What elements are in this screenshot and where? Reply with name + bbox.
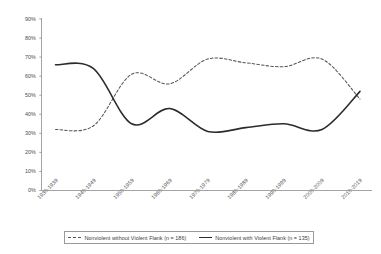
legend-label: Nonviolent without Violent Flank (n = 18… [84,235,186,241]
legend-solid-line-icon [199,237,212,238]
series-line-dashed [56,58,361,131]
legend-entry[interactable]: Nonviolent without Violent Flank (n = 18… [68,235,186,241]
series-lines [56,58,361,133]
plot-area [0,0,381,254]
chart-legend: Nonviolent without Violent Flank (n = 18… [64,231,314,244]
chart-container: 0%10%20%30%40%50%60%70%80%90% 1930-19391… [0,0,381,254]
legend-entry[interactable]: Nonviolent with Violent Flank (n = 135) [199,235,309,241]
legend-label: Nonviolent with Violent Flank (n = 135) [215,235,309,241]
series-line-solid [56,63,361,132]
axis-lines [42,18,373,191]
legend-dashed-line-icon [68,237,81,238]
